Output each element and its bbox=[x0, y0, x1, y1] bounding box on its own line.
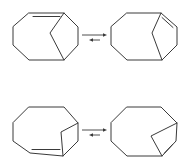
reverse-arrowhead-icon bbox=[89, 133, 93, 137]
reverse-arrowhead-icon bbox=[89, 38, 93, 42]
forward-arrowhead-icon bbox=[103, 33, 107, 37]
ring-bonds bbox=[111, 107, 177, 156]
molecule-1a bbox=[13, 13, 78, 60]
molecule-1b bbox=[111, 13, 177, 60]
bridge-bonds bbox=[61, 123, 78, 156]
reaction-diagram: Two equilibria between isomeric bicyclic… bbox=[0, 0, 185, 160]
equilibrium-arrows bbox=[82, 33, 107, 42]
bridge-bonds bbox=[152, 13, 162, 60]
ring-bonds bbox=[13, 107, 78, 156]
ring-bonds bbox=[111, 13, 177, 60]
ring-bonds bbox=[13, 13, 78, 60]
double-bond-line bbox=[165, 145, 173, 154]
equilibrium-row-1 bbox=[13, 13, 177, 60]
forward-arrowhead-icon bbox=[103, 128, 107, 132]
equilibrium-row-2 bbox=[13, 107, 177, 156]
molecule-2a bbox=[13, 107, 78, 156]
equilibrium-arrows bbox=[82, 128, 107, 137]
bridge-bonds bbox=[151, 123, 177, 156]
molecule-2b bbox=[111, 107, 177, 156]
bridge-bonds bbox=[50, 13, 64, 60]
diagram-canvas bbox=[0, 0, 185, 160]
